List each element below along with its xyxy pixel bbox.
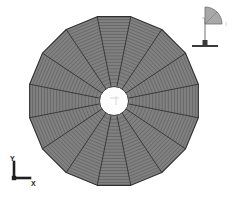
- central-hub-hole: [100, 87, 129, 116]
- axis-label-y: Y: [10, 155, 15, 162]
- axis-triad-glyph: [12, 162, 30, 180]
- mesh-canvas[interactable]: [0, 0, 238, 203]
- axis-label-x: X: [31, 180, 36, 187]
- orientation-indicator-glyph: [192, 7, 226, 47]
- mesh-viewport[interactable]: Y X: [0, 0, 238, 203]
